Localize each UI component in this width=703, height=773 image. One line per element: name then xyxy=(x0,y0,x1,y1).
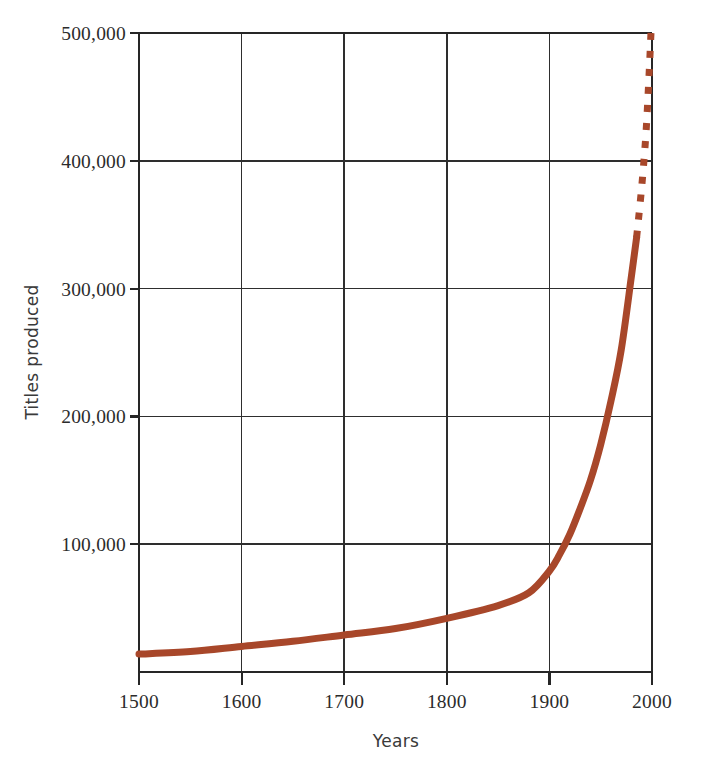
chart-figure: 100,000200,000300,000400,000500,000 1500… xyxy=(0,0,703,773)
chart-canvas: 100,000200,000300,000400,000500,000 1500… xyxy=(0,0,703,773)
y-axis-title: Titles produced xyxy=(22,284,42,420)
y-tick-label-300000: 300,000 xyxy=(61,279,126,300)
y-tick-label-100000: 100,000 xyxy=(61,534,126,555)
x-tick-label-1900: 1900 xyxy=(529,691,569,712)
y-tick-label-400000: 400,000 xyxy=(61,151,126,172)
x-tick-label-2000: 2000 xyxy=(632,691,672,712)
x-tick-label-1500: 1500 xyxy=(119,691,159,712)
x-tick-label-1600: 1600 xyxy=(222,691,262,712)
x-axis-title: Years xyxy=(372,731,419,751)
x-tick-label-1700: 1700 xyxy=(324,691,364,712)
x-tick-label-1800: 1800 xyxy=(427,691,467,712)
chart-background xyxy=(0,0,703,773)
y-tick-label-500000: 500,000 xyxy=(61,23,126,44)
y-tick-label-200000: 200,000 xyxy=(61,406,126,427)
